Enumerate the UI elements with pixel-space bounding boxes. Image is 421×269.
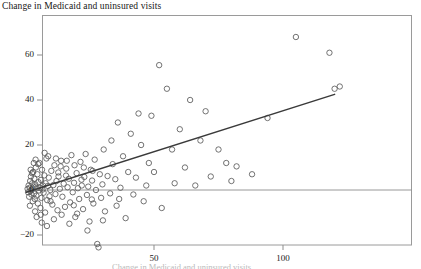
scatter-point (87, 219, 92, 224)
scatter-point (58, 158, 63, 163)
scatter-point (52, 163, 57, 168)
scatter-point (138, 142, 143, 147)
scatter-point (120, 154, 125, 159)
scatter-point (34, 214, 39, 219)
scatter-point (53, 156, 58, 161)
scatter-point (107, 191, 112, 196)
scatter-point (203, 109, 208, 114)
y-tick-label: 20 (25, 139, 35, 149)
scatter-point (27, 203, 32, 208)
scatter-point (51, 217, 56, 222)
scatter-point (39, 195, 44, 200)
scatter-point (79, 183, 84, 188)
scatter-point (83, 151, 88, 156)
scatter-point (53, 191, 58, 196)
scatter-point (327, 50, 332, 55)
scatter-point (172, 181, 177, 186)
scatter-point (156, 62, 161, 67)
scatter-point (208, 174, 213, 179)
scatter-point (59, 212, 64, 217)
scatter-point (193, 183, 198, 188)
scatter-plot: −20020406050100 (0, 0, 421, 269)
scatter-point (95, 241, 100, 246)
scatter-point (169, 147, 174, 152)
scatter-point (39, 220, 44, 225)
scatter-point (86, 184, 91, 189)
y-tick-label: 0 (30, 184, 35, 194)
scatter-point (92, 157, 97, 162)
y-tick-label: 60 (25, 49, 35, 59)
scatter-point (151, 169, 156, 174)
regression-line (26, 94, 334, 192)
scatter-point (71, 203, 76, 208)
y-tick-label: 40 (25, 94, 35, 104)
scatter-point (35, 172, 40, 177)
scatter-point (136, 111, 141, 116)
scatter-point (29, 170, 34, 175)
scatter-point (65, 185, 70, 190)
y-tick-label: −20 (20, 229, 35, 239)
scatter-point (114, 203, 119, 208)
scatter-point (64, 158, 69, 163)
scatter-point (46, 175, 51, 180)
x-tick-label: 50 (150, 253, 160, 263)
scatter-point (97, 172, 102, 177)
scatter-point (58, 164, 63, 169)
scatter-point (216, 147, 221, 152)
scatter-point (57, 186, 62, 191)
scatter-point (69, 152, 74, 157)
scatter-point (198, 138, 203, 143)
scatter-point (80, 206, 85, 211)
scatter-point (116, 196, 121, 201)
scatter-point (67, 221, 72, 226)
scatter-point (72, 163, 77, 168)
scatter-point (293, 34, 298, 39)
scatter-point (98, 195, 103, 200)
axis-ticks (37, 55, 283, 250)
scatter-point (101, 147, 106, 152)
scatter-point (76, 196, 81, 201)
scatter-point (115, 120, 120, 125)
plot-frame (43, 16, 412, 246)
xaxis-caption-clipped: Change in Medicaid and uninsured visits (112, 263, 342, 269)
scatter-point (133, 175, 138, 180)
scatter-point (234, 164, 239, 169)
scatter-point (126, 169, 131, 174)
scatter-point (224, 160, 229, 165)
scatter-point (100, 182, 105, 187)
scatter-point (64, 166, 69, 171)
scatter-point (159, 205, 164, 210)
scatter-point (149, 113, 154, 118)
scatter-point (182, 165, 187, 170)
scatter-point (85, 228, 90, 233)
scatter-point (89, 178, 94, 183)
scatter-point (141, 199, 146, 204)
figure-container: Change in Medicaid and uninsured visits … (0, 0, 421, 269)
scatter-point (128, 131, 133, 136)
scatter-point (60, 194, 65, 199)
scatter-point (332, 86, 337, 91)
scatter-point (102, 209, 107, 214)
scatter-point (55, 208, 60, 213)
scatter-point (177, 127, 182, 132)
scatter-point (131, 192, 136, 197)
scatter-point (105, 173, 110, 178)
x-tick-label: 100 (276, 253, 290, 263)
scatter-point (144, 183, 149, 188)
scatter-point (109, 138, 114, 143)
scatter-point (78, 159, 83, 164)
scatter-point (41, 190, 46, 195)
scatter-point (44, 223, 49, 228)
scatter-point (249, 172, 254, 177)
scatter-point (56, 170, 61, 175)
scatter-point (146, 160, 151, 165)
scatter-point (187, 97, 192, 102)
scatter-point (337, 84, 342, 89)
scatter-point (71, 180, 76, 185)
scatter-point (32, 209, 37, 214)
scatter-point (81, 165, 86, 170)
scatter-point (100, 218, 105, 223)
scatter-point (123, 215, 128, 220)
scatter-point (164, 86, 169, 91)
scatter-point (229, 178, 234, 183)
